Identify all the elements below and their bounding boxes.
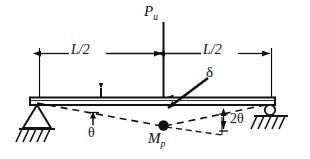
roller-support bbox=[251, 105, 288, 129]
rotation-double-label: 2θ bbox=[230, 112, 244, 126]
span-left-label: L/2 bbox=[71, 43, 90, 57]
beam bbox=[30, 98, 275, 106]
plastic-moment-symbol: M bbox=[148, 130, 161, 146]
rotation-label: θ bbox=[88, 126, 95, 140]
load-label-symbol: P bbox=[144, 3, 153, 19]
plastic-moment-subscript: p bbox=[161, 138, 166, 149]
angle-marker-2theta bbox=[219, 114, 228, 131]
span-right-label: L/2 bbox=[203, 43, 222, 57]
plastic-moment-label: Mp bbox=[148, 131, 165, 149]
load-label: Pu bbox=[144, 4, 158, 22]
beam-collapse-mechanism-figure: Pu L/2 L/2 δ Mp θ 2θ bbox=[0, 0, 310, 159]
load-label-subscript: u bbox=[153, 11, 158, 22]
pinned-support bbox=[16, 105, 55, 142]
deflection-label: δ bbox=[206, 65, 213, 80]
